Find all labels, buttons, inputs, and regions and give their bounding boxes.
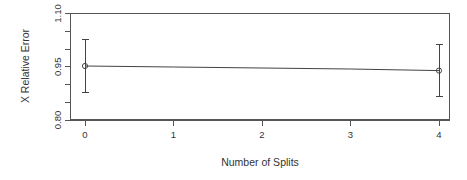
chart-figure: 1.10 0.95 0.80 X Relative Error 0 1 2 3 … bbox=[0, 0, 467, 180]
relative-error-plot: 1.10 0.95 0.80 X Relative Error 0 1 2 3 … bbox=[0, 0, 467, 180]
y-axis-title: X Relative Error bbox=[19, 28, 31, 103]
x-axis: 0 1 2 3 4 Number of Splits bbox=[71, 120, 450, 168]
x-tick-label-4: 4 bbox=[436, 129, 441, 140]
x-axis-title: Number of Splits bbox=[221, 156, 299, 168]
y-tick-label-0.80: 0.80 bbox=[52, 111, 63, 130]
x-tick-label-1: 1 bbox=[171, 129, 176, 140]
y-tick-label-1.10: 1.10 bbox=[52, 4, 63, 23]
x-tick-label-0: 0 bbox=[82, 129, 87, 140]
y-axis: 1.10 0.95 0.80 X Relative Error bbox=[19, 4, 71, 129]
y-tick-label-0.95: 0.95 bbox=[52, 58, 63, 77]
x-tick-label-2: 2 bbox=[259, 129, 264, 140]
x-tick-label-3: 3 bbox=[348, 129, 353, 140]
